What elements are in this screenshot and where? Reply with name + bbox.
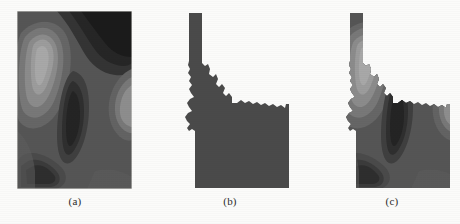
panel-b-idaho-mask xyxy=(185,11,290,189)
caption-panel-c: (c) xyxy=(372,195,412,207)
panel-b-svg xyxy=(185,11,290,189)
panel-a-contour-field xyxy=(17,11,132,189)
figure-root: (a) (b) (c) xyxy=(0,0,460,224)
idaho-silhouette xyxy=(185,13,289,188)
panel-c-clipgroup xyxy=(346,11,451,189)
caption-panel-b: (b) xyxy=(210,195,250,207)
panel-c-field xyxy=(346,11,451,189)
panel-c-clipped-field xyxy=(346,11,451,189)
panel-c-svg xyxy=(346,11,451,189)
panel-a-svg xyxy=(17,11,132,189)
caption-panel-a: (a) xyxy=(55,195,95,207)
panel-a-field xyxy=(17,11,132,189)
